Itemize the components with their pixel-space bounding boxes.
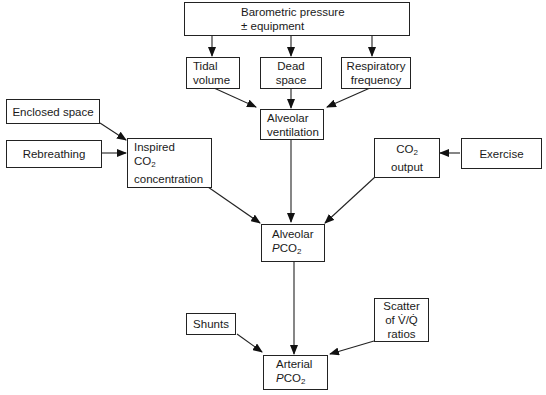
node-tidal-volume: Tidal volume [186,57,240,89]
node-co2-output: CO2 output [374,138,440,178]
node-dead-space: Dead space [260,57,322,89]
node-exercise: Exercise [461,138,542,169]
node-scatter-vq: Scatter of V̇/Q̇ ratios [374,298,429,342]
node-barometric-pressure: Barometric pressure ± equipment [184,2,410,36]
node-enclosed-space: Enclosed space [6,99,100,124]
node-alveolar-ventilation: Alveolar ventilation [260,109,324,140]
node-inspired-co2: Inspired CO2 concentration [127,138,212,188]
node-alveolar-pco2: Alveolar PCO2 [261,224,325,262]
node-shunts: Shunts [186,313,236,335]
node-rebreathing: Rebreathing [6,140,102,168]
node-respiratory-frequency: Respiratory frequency [341,57,411,89]
node-arterial-pco2: Arterial PCO2 [263,355,328,390]
